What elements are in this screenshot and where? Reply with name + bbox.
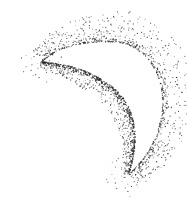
crescent-moon-illustration <box>0 0 187 212</box>
background <box>0 0 187 212</box>
